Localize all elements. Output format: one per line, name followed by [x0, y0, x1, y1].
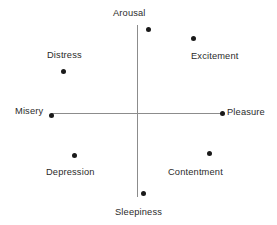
data-point-arousal[interactable]: [146, 27, 151, 32]
point-label-contentment: Contentment: [168, 167, 223, 178]
data-point-depression[interactable]: [72, 153, 77, 158]
data-point-contentment[interactable]: [207, 151, 212, 156]
point-label-arousal: Arousal: [113, 8, 146, 19]
point-label-distress: Distress: [47, 50, 82, 61]
point-label-pleasure: Pleasure: [227, 107, 265, 118]
arousal-sleepiness-axis: [137, 25, 138, 197]
point-label-sleepiness: Sleepiness: [115, 207, 162, 218]
misery-pleasure-axis: [52, 113, 222, 114]
data-point-distress[interactable]: [61, 69, 66, 74]
data-point-pleasure[interactable]: [220, 111, 225, 116]
data-point-excitement[interactable]: [191, 36, 196, 41]
data-point-sleepiness[interactable]: [141, 191, 146, 196]
circumplex-affect-chart: Arousal Excitement Pleasure Contentment …: [0, 0, 277, 225]
point-label-misery: Misery: [15, 106, 43, 117]
point-label-depression: Depression: [46, 167, 95, 178]
point-label-excitement: Excitement: [191, 51, 239, 62]
data-point-misery[interactable]: [49, 113, 54, 118]
